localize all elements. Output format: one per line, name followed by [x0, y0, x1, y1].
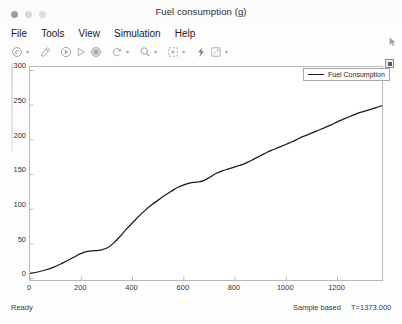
legend-label-fuel-consumption: Fuel Consumption: [328, 70, 385, 79]
y-tick-250: 250: [2, 97, 26, 105]
annotate-icon[interactable]: [208, 44, 223, 59]
cursor-measurements-icon[interactable]: [193, 44, 208, 59]
x-tick-600: 600: [177, 283, 190, 293]
step-forward-icon[interactable]: [73, 44, 88, 59]
mouse-cursor-icon: [389, 33, 397, 43]
menu-item-file[interactable]: File: [11, 26, 27, 42]
axis-ticks: [30, 71, 338, 281]
menu-item-view[interactable]: View: [78, 26, 100, 42]
stop-icon[interactable]: [88, 44, 103, 59]
menu-item-tools[interactable]: Tools: [41, 26, 64, 42]
scope-window: Fuel consumption (g) File Tools View Sim…: [0, 0, 402, 324]
status-sample-mode-text: Sample based: [293, 303, 341, 312]
restore-view-dropdown-caret-icon[interactable]: ▾: [124, 44, 131, 59]
y-tick-150: 150: [2, 166, 26, 174]
autoscale-icon[interactable]: [165, 44, 180, 59]
x-tick-400: 400: [125, 283, 138, 293]
zoom-dropdown-caret-icon[interactable]: ▾: [152, 44, 159, 59]
x-tick-1000: 1000: [277, 283, 294, 293]
y-tick-200: 200: [2, 132, 26, 140]
plot-area[interactable]: [29, 66, 383, 281]
status-bar: Ready Sample based T=1373.000: [0, 302, 402, 316]
autoscale-dropdown-caret-icon[interactable]: ▾: [180, 44, 187, 59]
x-tick-200: 200: [74, 283, 87, 293]
y-tick-100: 100: [2, 201, 26, 209]
title-bar: Fuel consumption (g): [0, 0, 402, 24]
menu-item-help[interactable]: Help: [175, 26, 196, 42]
maximize-axes-button[interactable]: [385, 59, 394, 68]
y-tick-0: 0: [2, 270, 26, 278]
window-title: Fuel consumption (g): [0, 6, 402, 17]
run-icon[interactable]: [58, 44, 73, 59]
toolbar: ▾: [0, 43, 230, 60]
x-tick-800: 800: [228, 283, 241, 293]
legend[interactable]: Fuel Consumption: [303, 68, 390, 81]
status-ready-text: Ready: [11, 303, 33, 312]
y-axis-tick-labels: 300 250 200 150 100 50 0: [0, 66, 26, 281]
x-tick-0: 0: [27, 283, 31, 293]
maximize-axes-glyph: [388, 62, 392, 66]
signal-plot: [30, 67, 382, 280]
zoom-icon[interactable]: [137, 44, 152, 59]
print-icon[interactable]: [9, 44, 24, 59]
menu-bar: File Tools View Simulation Help: [0, 26, 195, 42]
legend-swatch-fuel-consumption: [308, 74, 324, 75]
highlight-signal-icon[interactable]: [37, 44, 52, 59]
restore-view-icon[interactable]: [109, 44, 124, 59]
y-tick-50: 50: [2, 236, 26, 244]
print-dropdown-caret-icon[interactable]: ▾: [24, 44, 31, 59]
y-tick-300: 300: [2, 62, 26, 70]
menu-item-simulation[interactable]: Simulation: [114, 26, 161, 42]
annotate-dropdown-caret-icon[interactable]: ▾: [223, 44, 230, 59]
status-time-text: T=1373.000: [351, 303, 391, 312]
x-axis-tick-labels: 0 200 400 600 800 1000 1200: [29, 283, 383, 295]
series-line-fuel-consumption: [30, 106, 382, 274]
x-tick-1200: 1200: [328, 283, 345, 293]
